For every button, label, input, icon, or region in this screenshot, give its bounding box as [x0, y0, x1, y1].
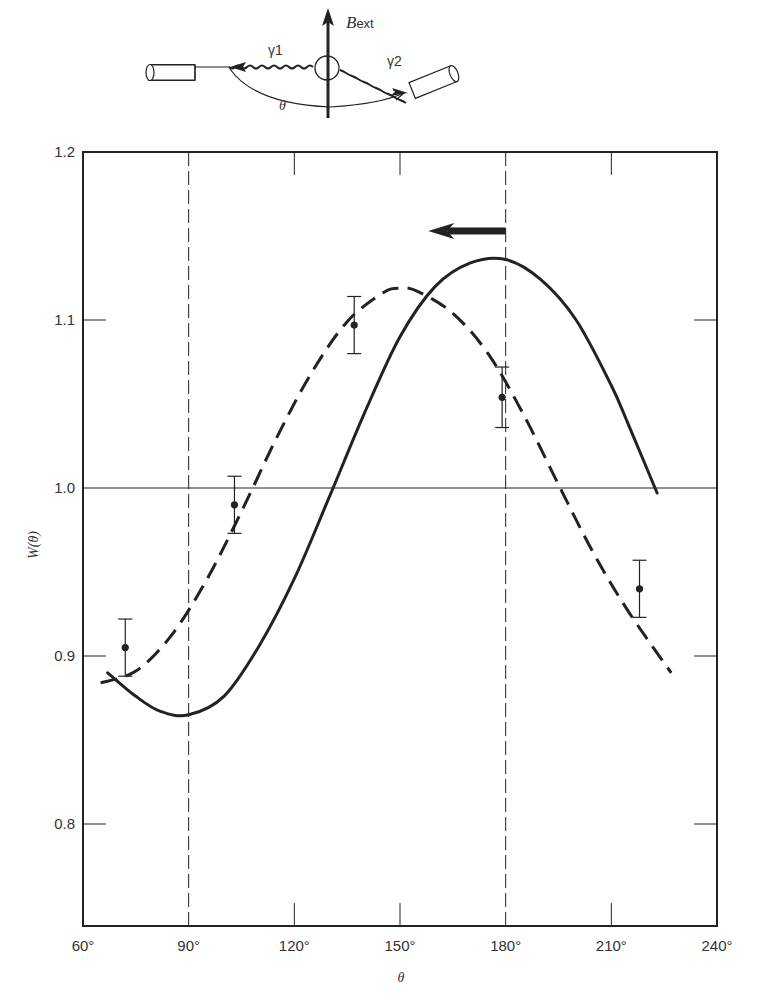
y-tick-label: 1.1: [54, 311, 75, 328]
x-tick-label: 210°: [596, 937, 627, 954]
x-tick-label: 240°: [701, 937, 732, 954]
gamma2-label: γ2: [387, 53, 402, 69]
data-point: [495, 367, 509, 427]
y-axis-label: W(θ): [26, 531, 42, 559]
x-tick-label: 60°: [72, 937, 95, 954]
x-tick-label: 180°: [490, 937, 521, 954]
gamma1-label: γ1: [268, 42, 283, 58]
x-tick-label: 150°: [384, 937, 415, 954]
data-point: [347, 296, 361, 353]
shift-arrow-shaft: [447, 227, 505, 234]
field-label: Bext: [346, 13, 374, 32]
curve-dashed: [101, 288, 672, 683]
y-tick-label: 1.2: [54, 143, 75, 160]
detector-right-icon: [409, 64, 461, 98]
y-tick-label: 0.9: [54, 647, 75, 664]
x-tick-label: 120°: [279, 937, 310, 954]
y-tick-labels: 1.21.11.00.90.8: [54, 143, 75, 832]
angular-correlation-figure: Bext γ1 γ2 θ W(θ) θ 60°90°120°150°180°21…: [0, 0, 773, 1003]
theta-angle-label: θ: [279, 98, 286, 113]
plot-area: [83, 152, 717, 926]
gamma1-arrowhead-icon: [230, 62, 246, 72]
detector-left-icon: [146, 65, 195, 81]
plot-frame: [83, 152, 717, 926]
x-tick-labels: 60°90°120°150°180°210°240°: [72, 937, 733, 954]
curve-solid: [108, 258, 657, 716]
data-point: [118, 619, 132, 676]
experiment-schematic: [146, 8, 461, 118]
data-point: [633, 560, 647, 617]
x-axis-label: θ: [398, 970, 405, 985]
x-tick-label: 90°: [177, 937, 200, 954]
gamma2-wave-icon: [340, 70, 406, 103]
data-point: [227, 476, 241, 533]
y-tick-label: 0.8: [54, 815, 75, 832]
y-tick-label: 1.0: [54, 479, 75, 496]
